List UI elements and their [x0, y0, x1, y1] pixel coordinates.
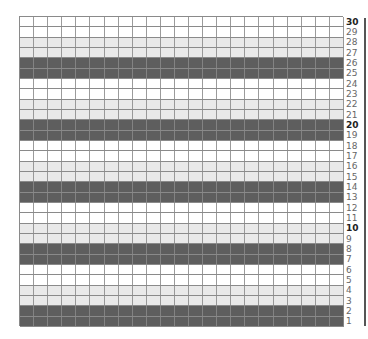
row-label: 18 [346, 141, 357, 151]
grid-column-line [118, 17, 119, 326]
grid-column-line [343, 17, 344, 326]
row-label: 24 [346, 79, 357, 89]
chart-row [20, 265, 344, 275]
row-label: 5 [346, 275, 352, 285]
chart-row [20, 296, 344, 306]
row-label: 6 [346, 265, 352, 275]
grid-column-line [33, 17, 34, 326]
row-label: 11 [346, 213, 357, 223]
knitting-chart-grid [19, 16, 343, 326]
grid-column-line [244, 17, 245, 326]
chart-row [20, 172, 344, 182]
chart-row [20, 317, 344, 327]
row-label: 12 [346, 203, 357, 213]
row-label: 26 [346, 58, 357, 68]
chart-row [20, 234, 344, 244]
chart-row [20, 255, 344, 265]
grid-column-line [230, 17, 231, 326]
chart-row [20, 69, 344, 79]
right-edge-bar [364, 18, 366, 326]
grid-column-line [216, 17, 217, 326]
chart-row [20, 193, 344, 203]
chart-row [20, 306, 344, 316]
chart-row [20, 131, 344, 141]
grid-column-line [329, 17, 330, 326]
chart-row [20, 17, 344, 27]
row-label: 15 [346, 172, 357, 182]
row-label: 10 [346, 223, 359, 233]
grid-column-line [146, 17, 147, 326]
chart-row [20, 275, 344, 285]
chart-row [20, 110, 344, 120]
row-label: 20 [346, 120, 359, 130]
chart-row [20, 203, 344, 213]
chart-row [20, 38, 344, 48]
grid-column-line [132, 17, 133, 326]
grid-column-line [174, 17, 175, 326]
grid-column-line [104, 17, 105, 326]
row-label: 22 [346, 99, 357, 109]
grid-column-line [273, 17, 274, 326]
grid-column-line [75, 17, 76, 326]
chart-row [20, 89, 344, 99]
row-label: 29 [346, 27, 357, 37]
grid-column-line [202, 17, 203, 326]
row-label: 13 [346, 192, 357, 202]
row-label: 28 [346, 37, 357, 47]
row-label: 14 [346, 182, 357, 192]
row-label: 23 [346, 89, 357, 99]
chart-row [20, 244, 344, 254]
grid-column-line [287, 17, 288, 326]
chart-row [20, 27, 344, 37]
row-label: 17 [346, 151, 357, 161]
grid-column-line [188, 17, 189, 326]
row-label: 16 [346, 161, 357, 171]
row-label: 7 [346, 254, 352, 264]
chart-row [20, 182, 344, 192]
chart-row [20, 151, 344, 161]
chart-row [20, 48, 344, 58]
row-label: 30 [346, 17, 359, 27]
chart-row [20, 213, 344, 223]
grid-column-line [315, 17, 316, 326]
chart-row [20, 162, 344, 172]
row-label: 25 [346, 68, 357, 78]
chart-row [20, 141, 344, 151]
chart-row [20, 79, 344, 89]
chart-row [20, 120, 344, 130]
row-label: 4 [346, 285, 352, 295]
grid-column-line [258, 17, 259, 326]
row-label: 2 [346, 306, 352, 316]
chart-row [20, 100, 344, 110]
grid-column-line [160, 17, 161, 326]
row-label: 19 [346, 130, 357, 140]
row-label: 21 [346, 110, 357, 120]
row-label: 3 [346, 296, 352, 306]
grid-column-line [89, 17, 90, 326]
row-label: 1 [346, 316, 352, 326]
row-label: 8 [346, 244, 352, 254]
chart-row [20, 286, 344, 296]
row-label: 9 [346, 234, 352, 244]
grid-column-line [47, 17, 48, 326]
row-label: 27 [346, 48, 357, 58]
grid-column-line [61, 17, 62, 326]
chart-row [20, 224, 344, 234]
grid-column-line [301, 17, 302, 326]
chart-row [20, 58, 344, 68]
